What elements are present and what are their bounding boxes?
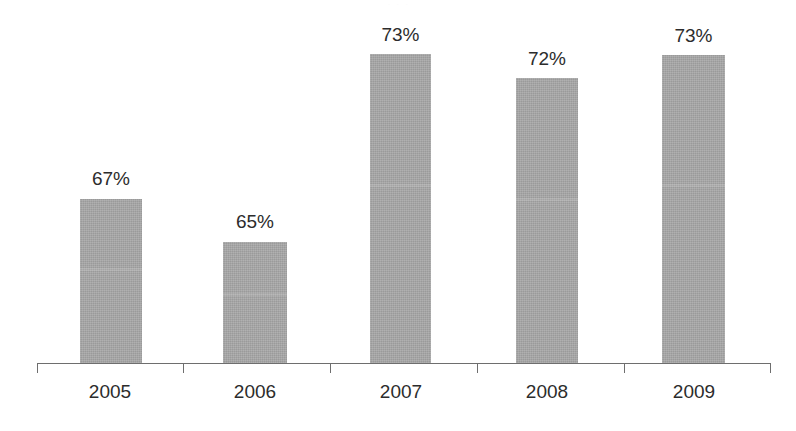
bar-value-label-2008: 72%	[507, 48, 587, 70]
x-axis-tick	[183, 363, 184, 373]
x-axis-label-2006: 2006	[205, 381, 305, 403]
bar-2005	[80, 199, 142, 363]
x-axis-label-2005: 2005	[60, 381, 160, 403]
x-axis-label-2007: 2007	[351, 381, 451, 403]
x-axis-tick	[37, 363, 38, 373]
x-axis-label-2009: 2009	[644, 381, 744, 403]
bar-chart: · · · 67%200565%200673%200772%200873%200…	[0, 0, 796, 431]
bar-value-label-2006: 65%	[215, 211, 295, 233]
bar-2008	[516, 78, 578, 363]
bar-2009	[662, 55, 725, 363]
x-axis-label-2008: 2008	[497, 381, 597, 403]
x-axis-line	[37, 363, 770, 364]
plot-area: 67%200565%200673%200772%200873%2009	[0, 0, 796, 431]
x-axis-tick	[477, 363, 478, 373]
bar-value-label-2007: 73%	[361, 24, 441, 46]
x-axis-tick	[330, 363, 331, 373]
bar-value-label-2005: 67%	[71, 168, 151, 190]
x-axis-tick	[624, 363, 625, 373]
bar-value-label-2009: 73%	[654, 25, 734, 47]
bar-2006	[223, 242, 287, 363]
x-axis-tick	[770, 363, 771, 373]
bar-2007	[370, 54, 431, 363]
